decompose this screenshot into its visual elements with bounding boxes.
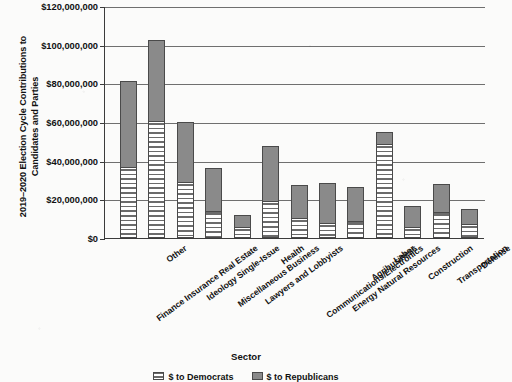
bar-segment-democrats[interactable]: [205, 211, 222, 238]
bar-segment-democrats[interactable]: [291, 218, 308, 238]
bar-stack[interactable]: [291, 185, 308, 238]
legend-item[interactable]: $ to Democrats: [153, 372, 233, 382]
bar-stack[interactable]: [347, 187, 364, 238]
bar-segment-democrats[interactable]: [148, 121, 165, 238]
bar-segment-democrats[interactable]: [262, 201, 279, 238]
bar-segment-democrats[interactable]: [319, 223, 336, 238]
bar-stack[interactable]: [262, 146, 279, 238]
bar-segment-democrats[interactable]: [177, 182, 194, 238]
y-axis-tick: [100, 123, 105, 124]
gridline: [105, 7, 485, 8]
bar-stack[interactable]: [461, 209, 478, 238]
bar-segment-republicans[interactable]: [319, 183, 336, 223]
y-axis-tick: [100, 84, 105, 85]
y-axis-tick-label: $20,000,000: [46, 195, 98, 205]
y-axis-title: 2019–2020 Election Cycle Contributions t…: [18, 19, 41, 234]
y-axis-tick: [100, 200, 105, 201]
x-axis-title: Sector: [0, 351, 492, 362]
bar-stack[interactable]: [148, 40, 165, 238]
legend-label: $ to Democrats: [168, 372, 233, 382]
bar-segment-republicans[interactable]: [291, 185, 308, 218]
bar-segment-republicans[interactable]: [404, 206, 421, 227]
y-axis-tick: [100, 46, 105, 47]
legend-label: $ to Republicans: [267, 372, 339, 382]
y-axis-tick-label: $80,000,000: [46, 79, 98, 89]
x-axis-tick-label: Other: [164, 243, 188, 264]
chart-legend: $ to Democrats$ to Republicans: [0, 372, 492, 382]
bar-stack[interactable]: [376, 132, 393, 238]
bar-segment-democrats[interactable]: [404, 227, 421, 238]
y-axis-tick-label: $100,000,000: [41, 41, 98, 51]
y-axis-tick-label: $40,000,000: [46, 157, 98, 167]
bar-stack[interactable]: [433, 184, 450, 238]
bar-segment-republicans[interactable]: [347, 187, 364, 221]
y-axis-tick-label: $60,000,000: [46, 118, 98, 128]
bar-stack[interactable]: [177, 122, 194, 238]
bar-segment-democrats[interactable]: [461, 224, 478, 238]
plot-area: $120,000,000$100,000,000$80,000,000$60,0…: [104, 7, 484, 239]
bar-segment-democrats[interactable]: [234, 227, 251, 238]
legend-item[interactable]: $ to Republicans: [252, 372, 339, 382]
legend-swatch-rep: [252, 372, 263, 380]
bar-segment-republicans[interactable]: [148, 40, 165, 121]
bar-segment-republicans[interactable]: [120, 81, 137, 167]
bar-segment-democrats[interactable]: [433, 212, 450, 238]
y-axis-tick-label: $0: [88, 234, 98, 244]
bar-stack[interactable]: [205, 168, 222, 238]
bar-stack[interactable]: [319, 183, 336, 238]
bar-stack[interactable]: [404, 206, 421, 238]
bar-segment-republicans[interactable]: [234, 215, 251, 228]
bar-segment-republicans[interactable]: [433, 184, 450, 212]
legend-swatch-dem: [153, 372, 164, 380]
bar-stack[interactable]: [234, 215, 251, 238]
bar-segment-republicans[interactable]: [177, 122, 194, 182]
bar-segment-republicans[interactable]: [461, 209, 478, 224]
y-axis-tick-label: $120,000,000: [41, 2, 98, 12]
bar-segment-republicans[interactable]: [376, 132, 393, 145]
y-axis-tick: [100, 7, 105, 8]
bar-stack[interactable]: [120, 81, 137, 238]
bar-segment-democrats[interactable]: [347, 221, 364, 238]
bar-segment-republicans[interactable]: [262, 146, 279, 201]
bar-segment-democrats[interactable]: [120, 167, 137, 238]
y-axis-tick: [100, 162, 105, 163]
y-axis-tick: [100, 239, 105, 240]
bar-segment-republicans[interactable]: [205, 168, 222, 211]
bar-segment-democrats[interactable]: [376, 144, 393, 238]
